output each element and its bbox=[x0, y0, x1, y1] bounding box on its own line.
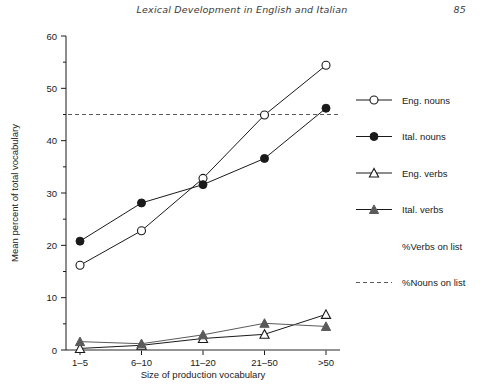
chart-axes bbox=[66, 36, 340, 350]
page-number: 85 bbox=[454, 4, 467, 15]
legend-label: %Nouns on list bbox=[402, 277, 466, 288]
y-tick-label: 40 bbox=[46, 135, 57, 146]
x-tick-label: 21–50 bbox=[251, 357, 277, 368]
x-tick-label: 11–20 bbox=[190, 357, 216, 368]
legend-marker bbox=[370, 96, 378, 104]
legend-label: Eng. nouns bbox=[402, 95, 450, 106]
data-series-lines bbox=[80, 65, 326, 348]
x-tick-label: 6–10 bbox=[131, 357, 152, 368]
y-tick-label: 30 bbox=[46, 188, 57, 199]
x-axis-label: Size of production vocabulary bbox=[141, 369, 266, 380]
data-series-markers bbox=[75, 61, 330, 352]
y-axis-ticks bbox=[61, 36, 66, 350]
x-axis-ticks bbox=[80, 350, 326, 355]
running-head: Lexical Development in English and Itali… bbox=[0, 4, 484, 20]
line-chart-svg: 0102030405060 1–56–1011–2021–50>50 Size … bbox=[0, 20, 484, 388]
data-point-marker bbox=[322, 104, 330, 112]
data-point-marker bbox=[138, 227, 146, 235]
page-canvas: Lexical Development in English and Itali… bbox=[0, 0, 484, 388]
data-point-marker bbox=[321, 310, 330, 319]
y-axis-tick-labels: 0102030405060 bbox=[46, 31, 57, 356]
data-point-marker bbox=[138, 199, 146, 207]
legend-label: Ital. verbs bbox=[402, 204, 443, 215]
legend-marker bbox=[370, 133, 378, 141]
legend-label: Eng. verbs bbox=[402, 168, 448, 179]
data-point-marker bbox=[261, 154, 269, 162]
legend-label: Ital. nouns bbox=[402, 131, 446, 142]
y-tick-label: 60 bbox=[46, 31, 57, 42]
data-point-marker bbox=[322, 61, 330, 69]
legend-label: %Verbs on list bbox=[402, 241, 463, 252]
data-point-marker bbox=[261, 111, 269, 119]
series-line bbox=[80, 65, 326, 265]
y-tick-label: 10 bbox=[46, 292, 57, 303]
x-axis-tick-labels: 1–56–1011–2021–50>50 bbox=[72, 357, 334, 368]
x-tick-label: 1–5 bbox=[72, 357, 88, 368]
reference-lines bbox=[68, 115, 340, 351]
y-axis-label: Mean percent of total vocabulary bbox=[9, 124, 20, 262]
figure-chart: 0102030405060 1–56–1011–2021–50>50 Size … bbox=[0, 20, 484, 388]
data-point-marker bbox=[260, 330, 269, 339]
data-point-marker bbox=[199, 181, 207, 189]
y-tick-label: 50 bbox=[46, 83, 57, 94]
running-head-title: Lexical Development in English and Itali… bbox=[0, 4, 484, 15]
y-tick-label: 20 bbox=[46, 240, 57, 251]
x-tick-label: >50 bbox=[318, 357, 334, 368]
data-point-marker bbox=[76, 237, 84, 245]
y-tick-label: 0 bbox=[52, 345, 57, 356]
chart-legend: Eng. nounsItal. nounsEng. verbsItal. ver… bbox=[356, 95, 466, 289]
data-point-marker bbox=[76, 261, 84, 269]
